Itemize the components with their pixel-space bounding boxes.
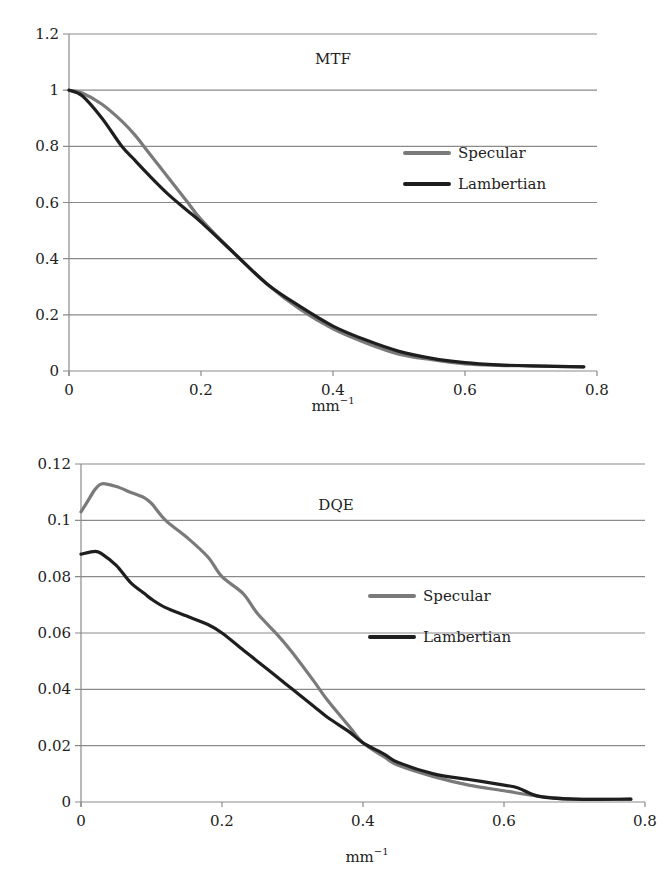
dqe-y-tick-label: 0.04: [38, 680, 71, 698]
mtf-legend: SpecularLambertian: [405, 144, 547, 193]
mtf-y-tick-label: 0.4: [35, 250, 59, 268]
mtf-y-tick-label: 0: [49, 362, 59, 380]
mtf-gridlines: [63, 34, 597, 371]
dqe-title: DQE: [318, 496, 353, 514]
dqe-series-lambertian: [81, 551, 631, 799]
dqe-y-tick-labels: 00.020.040.060.080.10.12: [38, 455, 71, 811]
dqe-x-tick-labels: 00.20.40.60.8: [76, 812, 657, 830]
mtf-title: MTF: [315, 50, 351, 68]
dqe-x-tick-label: 0.6: [492, 812, 516, 830]
mtf-series: [69, 90, 584, 367]
dqe-x-axis-exponent: −1: [374, 846, 389, 857]
dqe-y-tick-label: 0.12: [38, 455, 71, 473]
dqe-x-tick-label: 0.8: [633, 812, 657, 830]
mtf-x-tick-label: 0: [64, 381, 74, 399]
mtf-x-tick-label: 0.6: [453, 381, 477, 399]
dqe-x-tick-label: 0: [76, 812, 86, 830]
mtf-x-tick-label: 0.2: [189, 381, 213, 399]
dqe-y-tick-label: 0.02: [38, 737, 71, 755]
mtf-y-tick-label: 0.6: [35, 194, 59, 212]
mtf-y-tick-labels: 00.20.40.60.811.2: [35, 25, 59, 380]
dqe-y-tick-label: 0.08: [38, 568, 71, 586]
legend-label-lambertian: Lambertian: [458, 175, 547, 193]
legend-label-specular: Specular: [423, 587, 492, 605]
dqe-chart: 00.020.040.060.080.10.12 00.20.40.60.8 D…: [38, 455, 657, 866]
dqe-y-tick-label: 0: [61, 793, 71, 811]
mtf-chart: 00.20.40.60.811.2 00.20.40.60.8 MTF Spec…: [35, 25, 609, 415]
dqe-series-specular: [81, 484, 631, 800]
mtf-x-axis-unit: mm: [311, 397, 339, 415]
legend-label-specular: Specular: [458, 144, 527, 162]
dqe-y-tick-label: 0.06: [38, 624, 71, 642]
mtf-y-tick-label: 0.8: [35, 137, 59, 155]
mtf-y-tick-label: 1: [49, 81, 59, 99]
dqe-y-tick-label: 0.1: [47, 511, 71, 529]
figure: 00.20.40.60.811.2 00.20.40.60.8 MTF Spec…: [0, 0, 667, 888]
dqe-legend: SpecularLambertian: [370, 587, 512, 646]
legend-label-lambertian: Lambertian: [423, 628, 512, 646]
mtf-y-tick-label: 1.2: [35, 25, 59, 43]
mtf-series-specular: [69, 90, 584, 367]
mtf-x-axis-label: mm−1: [311, 395, 354, 415]
dqe-x-tick-label: 0.4: [351, 812, 375, 830]
mtf-x-tick-label: 0.8: [585, 381, 609, 399]
dqe-x-axis-unit: mm: [345, 848, 373, 866]
mtf-x-axis-exponent: −1: [340, 395, 355, 406]
dqe-series: [81, 484, 631, 800]
dqe-x-tick-label: 0.2: [210, 812, 234, 830]
dqe-x-axis-label: mm−1: [345, 846, 388, 866]
dqe-axes: [81, 464, 645, 807]
mtf-y-tick-label: 0.2: [35, 306, 59, 324]
